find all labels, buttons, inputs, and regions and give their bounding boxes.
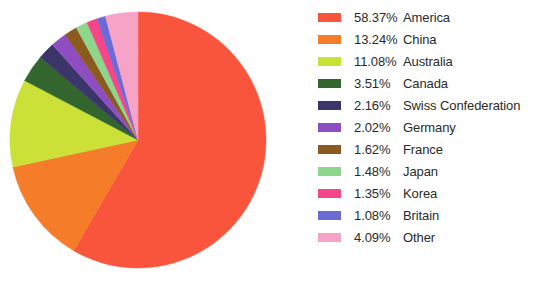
legend-item-value: 3.51% (354, 76, 403, 91)
legend-item-label: Japan (403, 164, 438, 179)
legend-item-label: Germany (403, 120, 456, 135)
legend-item-value: 58.37% (354, 10, 403, 25)
legend-item-label: America (403, 10, 450, 25)
legend-item-label: France (403, 142, 443, 157)
legend-item[interactable]: 1.62%France (318, 138, 560, 160)
legend-item[interactable]: 58.37%America (318, 6, 560, 28)
legend-item-label: China (403, 32, 436, 47)
pie-chart-svg (0, 0, 290, 281)
legend-item-value: 4.09% (354, 230, 403, 245)
pie-chart-plot-area (0, 0, 290, 281)
legend-item-value: 1.48% (354, 164, 403, 179)
legend-item-label: Swiss Confederation (403, 98, 520, 113)
legend-item-value: 11.08% (354, 54, 403, 69)
legend-color-swatch (318, 35, 341, 44)
legend-item[interactable]: 2.16%Swiss Confederation (318, 94, 560, 116)
legend-color-swatch (318, 189, 341, 198)
legend-item[interactable]: 1.35%Korea (318, 182, 560, 204)
legend-item[interactable]: 1.48%Japan (318, 160, 560, 182)
chart-legend: 58.37%America13.24%China11.08%Australia3… (318, 6, 560, 248)
legend-color-swatch (318, 211, 341, 220)
legend-item[interactable]: 11.08%Australia (318, 50, 560, 72)
legend-item-value: 1.35% (354, 186, 403, 201)
legend-item-value: 2.02% (354, 120, 403, 135)
pie-chart-figure: 58.37%America13.24%China11.08%Australia3… (0, 0, 560, 281)
legend-item[interactable]: 1.08%Britain (318, 204, 560, 226)
legend-item[interactable]: 3.51%Canada (318, 72, 560, 94)
legend-item[interactable]: 2.02%Germany (318, 116, 560, 138)
legend-item[interactable]: 4.09%Other (318, 226, 560, 248)
legend-item-value: 1.62% (354, 142, 403, 157)
legend-color-swatch (318, 101, 341, 110)
legend-color-swatch (318, 79, 341, 88)
legend-item-label: Australia (403, 54, 453, 69)
legend-color-swatch (318, 233, 341, 242)
legend-color-swatch (318, 13, 341, 22)
legend-color-swatch (318, 145, 341, 154)
legend-item-label: Other (403, 230, 435, 245)
legend-item-label: Korea (403, 186, 437, 201)
legend-item-value: 1.08% (354, 208, 403, 223)
legend-color-swatch (318, 167, 341, 176)
legend-color-swatch (318, 123, 341, 132)
legend-item-value: 2.16% (354, 98, 403, 113)
legend-item[interactable]: 13.24%China (318, 28, 560, 50)
legend-color-swatch (318, 57, 341, 66)
legend-item-label: Britain (403, 208, 439, 223)
legend-item-label: Canada (403, 76, 448, 91)
legend-item-value: 13.24% (354, 32, 403, 47)
